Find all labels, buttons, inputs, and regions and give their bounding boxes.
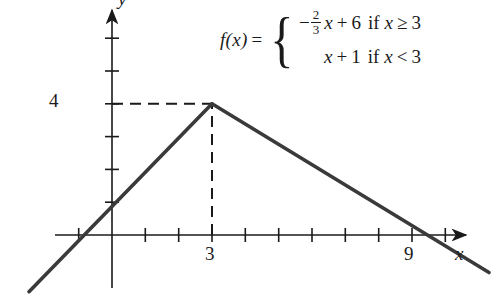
x-tick-label-9: 9	[404, 243, 414, 265]
case1-constant: 6	[351, 12, 361, 34]
curve-segment-right	[212, 104, 489, 273]
case1-condition-variable: x	[385, 12, 393, 34]
case1-sign: −	[299, 12, 310, 34]
case2-variable: x	[324, 46, 332, 68]
case1-condition-value: 3	[411, 12, 421, 34]
case1-if-word: if	[368, 12, 380, 34]
x-axis-label: x	[455, 243, 463, 265]
case1-denominator: 3	[311, 22, 322, 36]
case1-operator: +	[337, 12, 348, 34]
case2-relation: <	[397, 46, 408, 68]
cases-list: − 2 3 x + 6 if x ≥ 3 x + 1 if x < 3	[299, 6, 421, 74]
y-axis-label: y	[118, 0, 126, 10]
equals-sign: =	[252, 29, 263, 51]
case2-if-word: if	[368, 46, 380, 68]
case-row-first: − 2 3 x + 6 if x ≥ 3	[299, 6, 421, 40]
curve-segment-left	[29, 104, 212, 292]
case1-relation: ≥	[397, 12, 407, 34]
case2-condition-value: 3	[411, 46, 421, 68]
left-brace: {	[271, 17, 294, 62]
case-row-second: x + 1 if x < 3	[299, 40, 421, 74]
case2-operator: +	[336, 46, 347, 68]
x-tick-label-3: 3	[205, 243, 215, 265]
case1-variable: x	[324, 12, 332, 34]
case2-constant: 1	[351, 46, 361, 68]
case1-numerator: 2	[311, 8, 322, 21]
case2-condition-variable: x	[384, 46, 392, 68]
figure-canvas: 4 3 9 x y f(x) = { − 2 3 x + 6 if x ≥ 3	[0, 0, 504, 297]
case1-fraction: 2 3	[311, 8, 322, 36]
function-name: f(x)	[220, 29, 248, 51]
piecewise-formula: f(x) = { − 2 3 x + 6 if x ≥ 3 x + 1	[220, 6, 421, 74]
y-tick-label-4: 4	[49, 90, 59, 112]
